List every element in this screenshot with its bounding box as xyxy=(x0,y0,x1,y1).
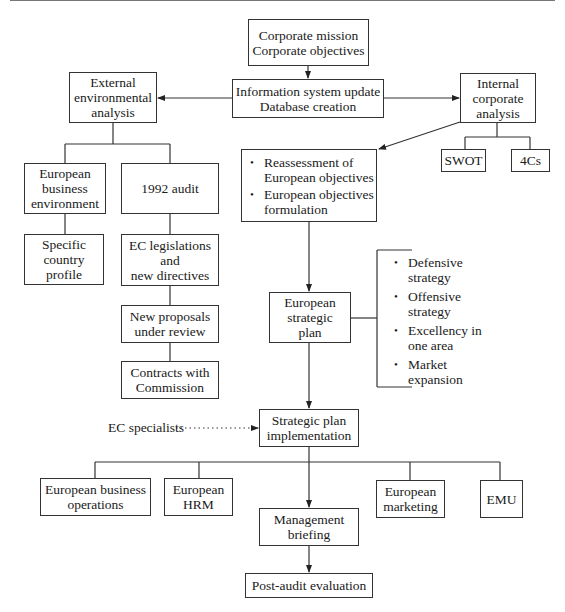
strategy-options-list: Defensive strategy Offensive strategy Ex… xyxy=(394,254,482,391)
node-line: plan xyxy=(298,325,321,340)
node-line: analysis xyxy=(91,105,135,120)
bullet-line: Excellency in xyxy=(408,323,482,338)
bullet-line: strategy xyxy=(408,270,482,285)
node-line: Post-audit evaluation xyxy=(252,578,366,593)
node-line: profile xyxy=(46,267,82,282)
node-emu: EMU xyxy=(480,480,523,518)
node-line: briefing xyxy=(288,527,331,542)
node-line: business xyxy=(42,181,88,196)
node-line: Strategic plan xyxy=(272,413,347,428)
node-european-hrm: European HRM xyxy=(164,478,233,516)
node-1992-audit: 1992 audit xyxy=(121,163,219,214)
ec-specialists-label: EC specialists xyxy=(108,420,184,436)
node-external-analysis: External environmental analysis xyxy=(69,72,157,123)
node-line: new directives xyxy=(131,268,209,283)
node-line: marketing xyxy=(383,499,438,514)
node-new-proposals: New proposals under review xyxy=(121,305,219,343)
node-line: corporate xyxy=(473,91,524,106)
node-line: EMU xyxy=(487,492,517,507)
node-line: and xyxy=(160,253,180,268)
node-line: 4Cs xyxy=(520,153,541,168)
node-reassessment: Reassessment of European objectives Euro… xyxy=(241,149,377,222)
node-post-audit-evaluation: Post-audit evaluation xyxy=(245,573,373,598)
node-line: 1992 audit xyxy=(141,181,198,196)
node-line: SWOT xyxy=(444,153,482,168)
node-line: Corporate objectives xyxy=(252,43,364,58)
node-line: European xyxy=(385,484,437,499)
node-line: under review xyxy=(135,324,206,339)
bullet-item: Reassessment of European objectives xyxy=(250,155,374,185)
node-line: strategic xyxy=(287,310,333,325)
node-line: analysis xyxy=(476,106,520,121)
node-line: environment xyxy=(31,196,99,211)
bullet-line: European objectives xyxy=(264,170,374,185)
node-line: Internal xyxy=(477,76,519,91)
bullet-line: one area xyxy=(408,338,482,353)
node-line: country xyxy=(43,252,84,267)
bullet-item: Market expansion xyxy=(394,357,482,387)
node-line: European xyxy=(173,482,225,497)
node-line: European xyxy=(39,166,91,181)
bullet-line: expansion xyxy=(408,372,482,387)
node-contracts-commission: Contracts with Commission xyxy=(121,361,219,399)
bullet-line: Market xyxy=(408,357,482,372)
bullet-line: European objectives xyxy=(264,187,374,202)
node-european-strategic-plan: European strategic plan xyxy=(269,292,351,343)
bullet-line: Reassessment of xyxy=(264,155,374,170)
node-4cs: 4Cs xyxy=(511,149,550,172)
node-line: New proposals xyxy=(130,309,211,324)
node-line: Database creation xyxy=(260,99,356,114)
node-european-business-operations: European business operations xyxy=(40,478,151,516)
node-line: HRM xyxy=(183,497,214,512)
node-line: Corporate mission xyxy=(259,28,358,43)
node-european-business-environment: European business environment xyxy=(24,163,106,214)
node-line: Contracts with xyxy=(130,365,209,380)
node-line: implementation xyxy=(267,428,352,443)
node-line: External xyxy=(90,75,136,90)
node-internal-analysis: Internal corporate analysis xyxy=(460,73,536,123)
node-line: operations xyxy=(67,497,123,512)
node-european-marketing: European marketing xyxy=(376,480,445,518)
node-line: European business xyxy=(45,482,146,497)
node-corporate-mission: Corporate mission Corporate objectives xyxy=(248,19,369,66)
bullet-line: formulation xyxy=(264,202,374,217)
bullet-item: Excellency in one area xyxy=(394,323,482,353)
bullet-line: Defensive xyxy=(408,255,482,270)
bullet-item: European objectives formulation xyxy=(250,187,374,217)
node-line: European xyxy=(284,295,336,310)
node-specific-country-profile: Specific country profile xyxy=(24,234,104,285)
node-line: Commission xyxy=(136,380,204,395)
node-line: environmental xyxy=(74,90,152,105)
node-swot: SWOT xyxy=(441,149,486,172)
node-line: EC legislations xyxy=(129,238,211,253)
bullet-item: Defensive strategy xyxy=(394,255,482,285)
bullet-line: Offensive xyxy=(408,289,482,304)
node-line: Information system update xyxy=(236,84,381,99)
node-information-system: Information system update Database creat… xyxy=(232,79,384,118)
bullet-line: strategy xyxy=(408,304,482,319)
node-line: Management xyxy=(274,512,344,527)
node-strategic-plan-implementation: Strategic plan implementation xyxy=(259,409,359,447)
node-ec-legislations: EC legislations and new directives xyxy=(121,234,219,286)
bullet-item: Offensive strategy xyxy=(394,289,482,319)
node-line: Specific xyxy=(42,237,86,252)
node-management-briefing: Management briefing xyxy=(259,508,359,546)
